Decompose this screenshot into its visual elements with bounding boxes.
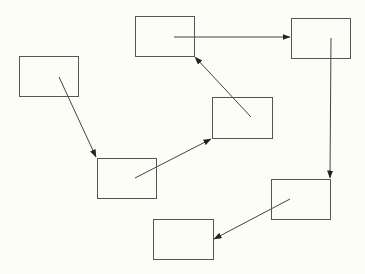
node-box-b[interactable] (135, 16, 195, 57)
node-box-c[interactable] (291, 18, 351, 59)
node-box-f[interactable] (271, 179, 331, 220)
node-box-d[interactable] (212, 97, 273, 139)
diagram-canvas (0, 0, 365, 274)
arrow-c-to-f (330, 38, 331, 178)
node-box-a[interactable] (19, 56, 79, 97)
node-box-e[interactable] (97, 158, 157, 199)
node-box-g[interactable] (153, 219, 214, 260)
